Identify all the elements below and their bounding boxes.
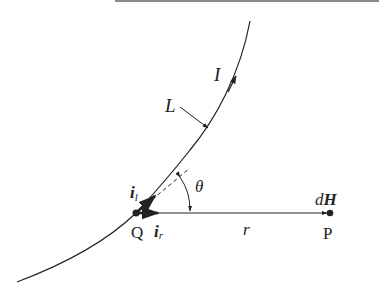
label-current-I: I xyxy=(213,64,222,85)
point-P-dot xyxy=(327,210,334,217)
current-arrow-icon xyxy=(228,76,236,92)
label-distance-r: r xyxy=(243,220,250,239)
label-unit-tangent: il xyxy=(130,183,138,203)
angle-theta-arc xyxy=(180,177,190,211)
label-angle-theta: θ xyxy=(195,177,203,196)
top-rule xyxy=(115,0,379,2)
point-Q-dot xyxy=(133,210,140,217)
label-field-dH: dH xyxy=(315,190,338,209)
diagram-canvas: I L il θ Q ir r P dH xyxy=(0,0,379,289)
label-point-Q: Q xyxy=(131,223,143,242)
curve-leader-arrow-icon xyxy=(180,107,208,128)
label-curve-L: L xyxy=(164,95,176,116)
label-unit-radial: ir xyxy=(154,222,164,241)
unit-tangent-vector xyxy=(136,196,155,213)
curve-L xyxy=(17,21,250,282)
diagram-svg: I L il θ Q ir r P dH xyxy=(0,0,379,289)
label-point-P: P xyxy=(323,224,332,243)
